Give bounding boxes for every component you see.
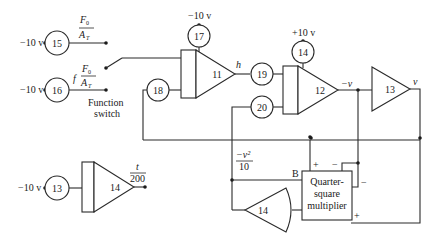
amplifier-14-feedback: 14 bbox=[245, 188, 291, 232]
pot-16-branch: −10 v 16 f F 0 A T Function switch bbox=[20, 63, 124, 119]
input-voltage-16: −10 v bbox=[20, 84, 43, 95]
svg-text:10: 10 bbox=[239, 161, 249, 172]
svg-text:14: 14 bbox=[110, 182, 120, 193]
svg-text:square: square bbox=[314, 188, 341, 199]
svg-text:−10 v: −10 v bbox=[18, 182, 41, 193]
svg-text:t: t bbox=[136, 161, 139, 172]
h-label: h bbox=[236, 59, 241, 70]
svg-text:−v²: −v² bbox=[236, 149, 251, 160]
svg-text:T: T bbox=[86, 35, 90, 41]
integrator-11: 11 bbox=[181, 50, 235, 98]
svg-text:200: 200 bbox=[130, 173, 145, 184]
svg-text:12: 12 bbox=[315, 85, 325, 96]
svg-text:14: 14 bbox=[258, 205, 268, 216]
svg-text:13: 13 bbox=[385, 84, 395, 95]
svg-text:14: 14 bbox=[298, 47, 308, 58]
pot-15-branch: −10 v 15 F 0 A T bbox=[20, 14, 108, 55]
integrator-12: 12 bbox=[283, 66, 338, 114]
node-B-label: B bbox=[292, 168, 299, 179]
potentiometer-20: 20 bbox=[232, 96, 283, 140]
svg-text:A: A bbox=[78, 29, 86, 40]
svg-text:−10 v: −10 v bbox=[188, 10, 211, 21]
analog-circuit-diagram: −10 v 15 F 0 A T −10 v 16 f F 0 A T Func… bbox=[0, 0, 436, 252]
svg-text:−: − bbox=[332, 159, 338, 170]
svg-text:20: 20 bbox=[257, 102, 267, 113]
svg-text:−: − bbox=[361, 177, 367, 188]
function-switch bbox=[104, 58, 181, 70]
inverter-13: 13 bbox=[372, 67, 410, 111]
neg-v-label: −v bbox=[341, 78, 353, 89]
potentiometer-14-top: +10 v 14 bbox=[292, 27, 315, 68]
switch-contact-1 bbox=[104, 41, 108, 45]
potentiometer-18: 18 bbox=[143, 79, 181, 140]
svg-text:multiplier: multiplier bbox=[307, 200, 347, 211]
svg-text:11: 11 bbox=[212, 69, 222, 80]
svg-text:13: 13 bbox=[52, 183, 62, 194]
input-voltage-15: −10 v bbox=[20, 37, 43, 48]
svg-text:0: 0 bbox=[88, 69, 91, 75]
svg-text:f: f bbox=[73, 73, 77, 84]
svg-text:+10 v: +10 v bbox=[292, 27, 315, 38]
svg-text:18: 18 bbox=[153, 85, 163, 96]
svg-text:15: 15 bbox=[52, 38, 62, 49]
svg-text:16: 16 bbox=[52, 85, 62, 96]
svg-text:+: + bbox=[313, 159, 319, 170]
svg-text:19: 19 bbox=[257, 69, 267, 80]
svg-text:switch: switch bbox=[94, 108, 120, 119]
svg-text:0: 0 bbox=[86, 20, 89, 26]
potentiometer-19: 19 bbox=[251, 63, 283, 85]
svg-text:+: + bbox=[354, 210, 360, 221]
svg-text:17: 17 bbox=[194, 31, 204, 42]
timer-branch: −10 v 13 14 t 200 bbox=[18, 161, 147, 212]
switch-contact-2 bbox=[104, 88, 108, 92]
v-label: v bbox=[413, 76, 418, 87]
svg-text:T: T bbox=[88, 83, 92, 89]
svg-text:Quarter-: Quarter- bbox=[310, 176, 344, 187]
quarter-square-multiplier: Quarter- square multiplier bbox=[302, 171, 352, 220]
function-switch-label: Function bbox=[88, 97, 124, 108]
potentiometer-17: −10 v 17 bbox=[188, 10, 211, 52]
svg-text:A: A bbox=[80, 77, 88, 88]
